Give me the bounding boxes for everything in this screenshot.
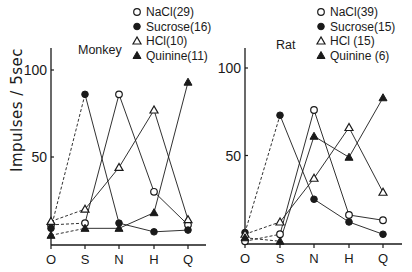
panel-title: Monkey	[78, 43, 123, 57]
svg-text:HCl(10): HCl(10)	[146, 34, 187, 48]
x-tick-label: N	[309, 251, 318, 266]
legend-item: Quinine (6)	[317, 49, 389, 63]
svg-text:Sucrose(15): Sucrose(15)	[330, 20, 395, 34]
svg-text:HCl (15): HCl (15)	[330, 34, 375, 48]
series-line	[85, 82, 188, 228]
legend-item: HCl (15)	[317, 34, 375, 48]
y-tick-label: 100	[24, 62, 48, 78]
svg-text:Quinine(11): Quinine(11)	[146, 49, 208, 63]
legend-item: NaCl(29)	[134, 5, 194, 19]
x-tick-label: H	[149, 252, 158, 267]
legend-item: HCl(10)	[133, 34, 187, 48]
series-line	[280, 115, 383, 234]
panel-monkey: 50100OSNHQMonkeyNaCl(29)Sucrose(16)HCl(1…	[24, 5, 212, 267]
chart-canvas: 50100OSNHQMonkeyNaCl(29)Sucrose(16)HCl(1…	[0, 0, 412, 272]
x-tick-label: H	[344, 251, 353, 266]
legend-item: NaCl(39)	[318, 5, 378, 19]
y-axis-label: Impulses / 5sec	[8, 48, 26, 172]
panel-rat: 50100OSNHQRatNaCl(39)Sucrose(15)HCl (15)…	[218, 5, 402, 266]
x-tick-label: O	[46, 252, 56, 267]
legend-item: Sucrose(15)	[318, 20, 396, 34]
svg-text:Quinine (6): Quinine (6)	[330, 49, 389, 63]
y-tick-label: 50	[225, 148, 241, 164]
series-line	[280, 98, 383, 242]
x-tick-label: Q	[183, 252, 193, 267]
legend-item: Sucrose(16)	[134, 20, 212, 34]
series-line	[280, 128, 383, 223]
y-tick-label: 100	[218, 60, 242, 76]
x-tick-label: O	[240, 251, 250, 266]
svg-text:NaCl(39): NaCl(39)	[330, 5, 378, 19]
x-tick-label: N	[114, 252, 123, 267]
series-line	[280, 110, 383, 234]
svg-text:NaCl(29): NaCl(29)	[146, 5, 194, 19]
x-tick-label: S	[81, 252, 90, 267]
y-tick-label: 50	[31, 149, 47, 165]
legend-item: Quinine(11)	[133, 49, 208, 63]
panel-title: Rat	[276, 38, 296, 52]
x-tick-label: Q	[378, 251, 388, 266]
series-line	[85, 94, 188, 225]
svg-text:Sucrose(16): Sucrose(16)	[146, 20, 211, 34]
x-tick-label: S	[276, 251, 285, 266]
